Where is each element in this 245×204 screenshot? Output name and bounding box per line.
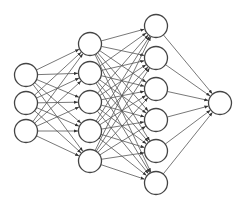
hidden-layer-2-neuron-4	[145, 109, 168, 132]
hidden-layer-1-neuron-1	[79, 33, 102, 56]
connection-arrow	[101, 153, 144, 159]
input-layer-neuron-2	[15, 92, 38, 115]
hidden-layer-1-neuron-3	[79, 91, 102, 114]
connection-arrow	[36, 136, 79, 156]
connection-arrow	[165, 110, 210, 144]
connection-arrow	[165, 65, 210, 96]
hidden-layer-2-neuron-1	[145, 15, 168, 38]
connection-arrow	[99, 33, 146, 66]
connection-arrow	[100, 50, 147, 82]
connection-arrow	[167, 106, 208, 117]
input-layer-neuron-1	[15, 64, 38, 87]
connection-arrow	[167, 91, 208, 100]
connection-arrow	[163, 112, 212, 174]
connection-arrow	[101, 61, 144, 71]
hidden-layer-1-neuron-5	[79, 150, 102, 173]
connection-arrow	[101, 46, 144, 55]
hidden-layer-2-neuron-2	[145, 47, 168, 70]
hidden-layer-2-neuron-6	[145, 172, 168, 195]
connection-arrow	[97, 82, 148, 142]
hidden-layer-1-neuron-4	[79, 120, 102, 143]
connection-arrow	[163, 35, 212, 94]
neural-network-diagram	[0, 0, 245, 204]
connection-arrow	[99, 109, 146, 144]
hidden-layer-2-neuron-5	[145, 140, 168, 163]
neurons	[15, 15, 232, 195]
connection-arrow	[98, 35, 149, 93]
connection-arrow	[100, 126, 146, 155]
hidden-layer-2-neuron-3	[145, 78, 168, 101]
hidden-layer-1-neuron-2	[79, 62, 102, 85]
output-layer-neuron-1	[209, 92, 232, 115]
connection-arrow	[101, 165, 145, 180]
connections	[33, 29, 213, 179]
connection-arrow	[95, 37, 151, 151]
input-layer-neuron-3	[15, 120, 38, 143]
connection-arrow	[95, 54, 151, 172]
